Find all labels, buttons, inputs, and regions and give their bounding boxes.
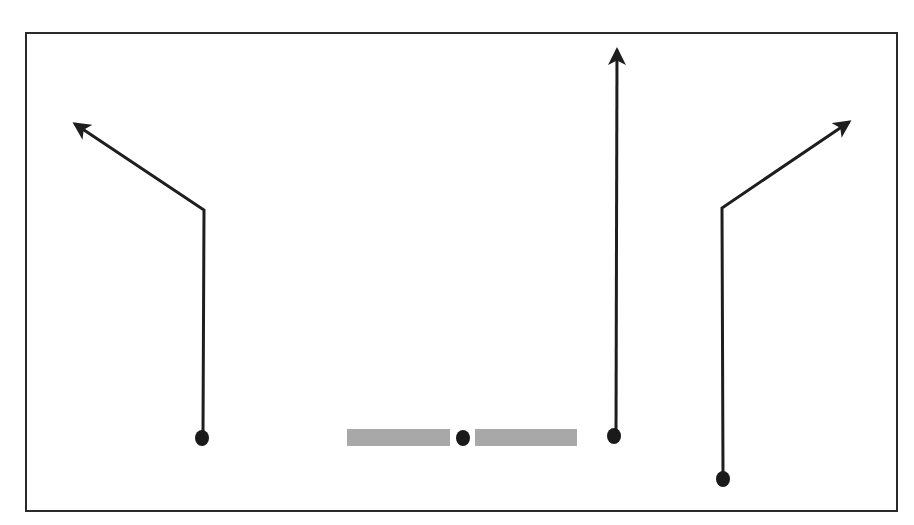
player-right-receiver — [716, 471, 730, 487]
scrimmage-bar-left — [347, 429, 450, 446]
players-group — [195, 428, 730, 487]
play-diagram — [0, 0, 914, 525]
routes-group — [75, 50, 849, 475]
scrimmage-bar-right — [475, 429, 577, 446]
player-left-receiver — [195, 430, 209, 446]
route-left-post-corner — [75, 124, 204, 434]
player-slot-receiver — [607, 428, 621, 444]
player-center — [456, 430, 470, 446]
route-middle-go — [616, 50, 617, 432]
route-right-corner — [722, 122, 849, 475]
